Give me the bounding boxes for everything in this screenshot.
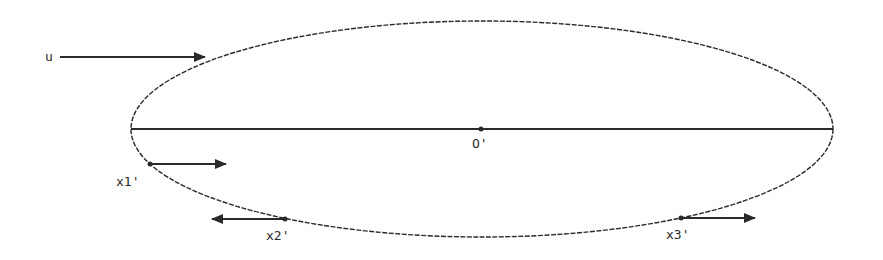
x2-label: x2' <box>266 228 289 243</box>
ellipse-diagram: O' u x1' x2' x3' <box>0 0 883 260</box>
origin-point <box>479 127 484 132</box>
u-label: u <box>45 49 53 64</box>
origin-label: O' <box>472 136 488 151</box>
x3-label: x3' <box>666 227 689 242</box>
x1-label: x1' <box>116 174 139 189</box>
